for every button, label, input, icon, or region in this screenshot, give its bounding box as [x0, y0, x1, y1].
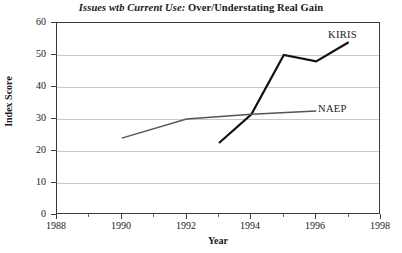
series-lines [57, 23, 381, 215]
x-tick-label-1990: 1990 [101, 220, 141, 231]
x-tick-minor-1993 [218, 214, 219, 217]
x-tick-label-1998: 1998 [360, 220, 400, 231]
x-tick-label-1994: 1994 [230, 220, 270, 231]
x-tick-minor-1995 [283, 214, 284, 217]
x-tick-major-1994 [250, 214, 251, 219]
chart-title-italic: Issues wtb Current Use: [79, 2, 185, 13]
y-tick-label-50: 50 [0, 49, 46, 59]
y-tick-label-20: 20 [0, 145, 46, 155]
y-axis-title: Index Score [3, 47, 14, 157]
x-tick-label-1988: 1988 [36, 220, 76, 231]
x-axis-title: Year [56, 235, 380, 246]
x-tick-major-1988 [56, 214, 57, 219]
series-line-naep [122, 111, 316, 138]
x-tick-minor-1989 [88, 214, 89, 217]
x-tick-major-1992 [186, 214, 187, 219]
chart-title-roman: Over/Understating Real Gain [188, 2, 323, 13]
y-tick-label-60: 60 [0, 17, 46, 27]
y-tick-label-10: 10 [0, 177, 46, 187]
series-label-kiris: KIRIS [328, 29, 357, 40]
x-tick-major-1998 [380, 214, 381, 219]
y-tick-label-30: 30 [0, 113, 46, 123]
y-tick-label-40: 40 [0, 81, 46, 91]
x-tick-label-1992: 1992 [166, 220, 206, 231]
y-tick-label-0: 0 [0, 209, 46, 219]
x-tick-minor-1991 [153, 214, 154, 217]
plot-area [56, 22, 380, 214]
x-tick-minor-1997 [348, 214, 349, 217]
series-line-kiris [219, 42, 349, 143]
x-tick-major-1990 [121, 214, 122, 219]
series-label-naep: NAEP [318, 103, 347, 114]
chart-title: Issues wtb Current Use: Over/Understatin… [0, 1, 402, 14]
x-tick-label-1996: 1996 [295, 220, 335, 231]
x-tick-major-1996 [315, 214, 316, 219]
chart-figure: Issues wtb Current Use: Over/Understatin… [0, 0, 402, 253]
